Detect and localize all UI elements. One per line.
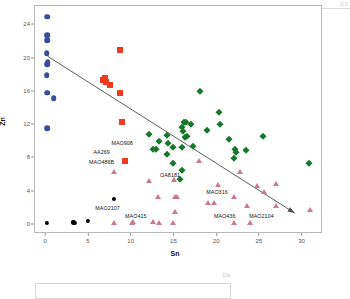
x-tick-0: 0: [44, 238, 47, 244]
y-tick-mark: [31, 124, 34, 125]
x-tick-25: 25: [256, 238, 263, 244]
y-tick-0: 0: [27, 221, 30, 227]
y-tick-mark: [31, 24, 34, 25]
bottom-right-artifact-text: 33a: [222, 272, 230, 278]
point-label: MAO2107: [95, 205, 120, 211]
x-tick-mark: [216, 233, 217, 236]
top-right-artifact-text: 3/3: [340, 1, 348, 7]
point-label: MAO2104: [249, 213, 274, 219]
y-tick-mark: [31, 157, 34, 158]
point-label: AA269: [93, 149, 109, 155]
x-tick-mark: [258, 233, 259, 236]
x-tick-mark: [301, 233, 302, 236]
y-tick-mark: [31, 190, 34, 191]
x-tick-10: 10: [127, 238, 134, 244]
y-axis-label: Zn: [0, 117, 6, 126]
y-tick-mark: [31, 224, 34, 225]
x-tick-15: 15: [170, 238, 177, 244]
x-tick-mark: [173, 233, 174, 236]
bottom-bar[interactable]: [35, 283, 231, 299]
plot-area: 04812162024051015202530MAO908AA269MAO486…: [34, 5, 322, 233]
y-tick-4: 4: [27, 188, 30, 194]
x-tick-5: 5: [86, 238, 89, 244]
y-tick-mark: [31, 57, 34, 58]
x-tick-20: 20: [213, 238, 220, 244]
point-label: MAO908: [111, 140, 133, 146]
x-tick-mark: [45, 233, 46, 236]
y-tick-8: 8: [27, 154, 30, 160]
y-tick-20: 20: [23, 55, 30, 61]
point-label: MAO316: [206, 189, 228, 195]
y-tick-16: 16: [23, 88, 30, 94]
y-tick-12: 12: [23, 121, 30, 127]
point-label: MAO486B: [89, 159, 114, 165]
point-label: OA8181: [160, 172, 180, 178]
trendline: [35, 6, 321, 232]
point-label: MAO436: [214, 213, 236, 219]
x-tick-mark: [130, 233, 131, 236]
x-tick-mark: [87, 233, 88, 236]
y-tick-mark: [31, 90, 34, 91]
x-tick-30: 30: [298, 238, 305, 244]
plot-inner: 04812162024051015202530MAO908AA269MAO486…: [35, 6, 321, 232]
point-label: MAO415: [125, 213, 147, 219]
y-tick-24: 24: [23, 21, 30, 27]
x-axis-label: Sn: [0, 250, 350, 257]
